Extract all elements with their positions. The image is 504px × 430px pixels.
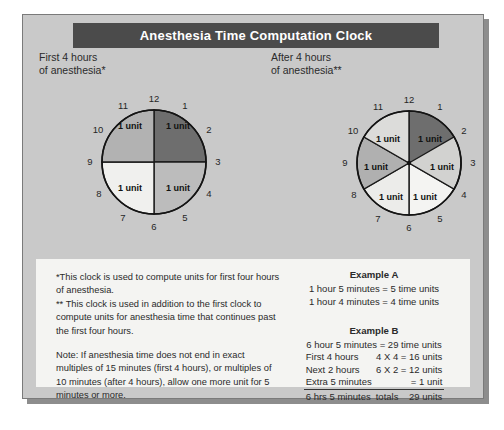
clock2-dial-11: 11: [373, 101, 383, 112]
table-row: Next 2 hours 6 X 2 = 12 units: [304, 364, 445, 376]
clock2-center-hub: [407, 161, 411, 165]
clock2-unit-label-s2: 1 unit: [430, 162, 454, 172]
example-a-title: Example A: [288, 269, 460, 280]
clock1-dial-5: 5: [182, 212, 187, 223]
clock1-dial-4: 4: [206, 188, 211, 199]
clock1-unit-label-q4: 1 unit: [118, 121, 142, 131]
page-title: Anesthesia Time Computation Clock: [73, 23, 439, 48]
clock2-dial-12: 12: [404, 94, 415, 105]
clock1-dial-1: 1: [182, 100, 187, 111]
example-b-title: Example B: [288, 325, 460, 336]
clock2-unit-label-s5: 1 unit: [364, 162, 388, 172]
clock2-dial-6: 6: [406, 222, 411, 233]
footnote-single-asterisk: *This clock is used to compute units for…: [56, 271, 282, 298]
example-b-row-2-value: = 1 unit: [374, 376, 445, 390]
examples-column: Example A 1 hour 5 minutes = 5 time unit…: [288, 269, 460, 403]
clock-quadrants-svg: 1 unit 1 unit 1 unit 1 unit 12 1 2 3 4 5…: [79, 87, 229, 237]
example-b-row-1-label: Next 2 hours: [304, 364, 374, 376]
example-b-table: 6 hour 5 minutes = 29 time units First 4…: [304, 339, 445, 403]
clock1-unit-label-q3: 1 unit: [118, 183, 142, 193]
clock-sextants-svg: 1 unit 1 unit 1 unit 1 unit 1 unit 1 uni…: [334, 88, 484, 238]
table-row: Extra 5 minutes = 1 unit: [304, 376, 445, 390]
first-four-hours-clock-block: First 4 hours of anesthesia* 1 unit 1 un…: [31, 51, 251, 251]
example-b-header: 6 hour 5 minutes = 29 time units: [304, 339, 445, 351]
clock2-unit-label-s3: 1 unit: [413, 192, 437, 202]
clock1-dial-2: 2: [206, 124, 211, 135]
clock1-dial-11: 11: [118, 100, 128, 111]
clock2-dial-9: 9: [342, 157, 347, 168]
clock1-unit-label-q1: 1 unit: [166, 121, 190, 131]
example-a-line-1: 1 hour 5 minutes = 5 time units: [288, 283, 460, 296]
clock2-unit-label-s6: 1 unit: [376, 134, 400, 144]
anesthesia-clock-poster: Anesthesia Time Computation Clock First …: [22, 14, 484, 399]
after-four-hours-caption: After 4 hours of anesthesia**: [271, 51, 342, 77]
footnote-double-asterisk: ** This clock is used in addition to the…: [56, 298, 282, 338]
example-b-total-row: 6 hrs 5 minutes totals 29 units: [304, 390, 445, 404]
clock2-unit-label-s4: 1 unit: [379, 192, 403, 202]
after-four-hours-clock-dial: 1 unit 1 unit 1 unit 1 unit 1 unit 1 uni…: [334, 88, 484, 238]
example-b-total-word: totals: [376, 391, 399, 402]
example-b-row-1-value: 6 X 2 = 12 units: [374, 364, 445, 376]
rounding-note: Note: If anesthesia time does not end in…: [56, 349, 282, 403]
clock1-dial-7: 7: [120, 212, 125, 223]
example-a-body: 1 hour 5 minutes = 5 time units 1 hour 4…: [288, 283, 460, 308]
clock2-dial-7: 7: [375, 213, 380, 224]
example-b-total-label: 6 hrs 5 minutes: [304, 390, 374, 404]
example-b-total-value: totals 29 units: [374, 390, 445, 404]
examples-spacer: [288, 308, 460, 325]
example-b-row-0-value: 4 X 4 = 16 units: [374, 351, 445, 363]
clock1-unit-label-q2: 1 unit: [166, 183, 190, 193]
page-title-text: Anesthesia Time Computation Clock: [140, 28, 372, 43]
clock2-dial-5: 5: [437, 213, 442, 224]
clock2-dial-1: 1: [437, 101, 442, 112]
clock2-dial-10: 10: [348, 125, 359, 136]
clock1-dial-6: 6: [151, 221, 156, 232]
clock2-dial-8: 8: [351, 189, 356, 200]
clock1-dial-3: 3: [215, 156, 220, 167]
clock1-dial-12: 12: [149, 93, 160, 104]
info-panel: *This clock is used to compute units for…: [36, 259, 470, 387]
first-four-hours-caption: First 4 hours of anesthesia*: [39, 51, 106, 77]
clock2-dial-4: 4: [461, 189, 466, 200]
clock1-dial-9: 9: [87, 156, 92, 167]
example-b-total-units: 29 units: [409, 391, 442, 402]
clock2-unit-label-s1: 1 unit: [418, 134, 442, 144]
clock1-dial-10: 10: [93, 124, 104, 135]
clock2-dial-2: 2: [461, 125, 466, 136]
first-four-hours-clock-dial: 1 unit 1 unit 1 unit 1 unit 12 1 2 3 4 5…: [79, 87, 229, 237]
example-b-row-2-label: Extra 5 minutes: [304, 376, 374, 390]
after-four-hours-clock-block: After 4 hours of anesthesia** 1 unit 1 u…: [263, 51, 483, 251]
example-b-header-row: 6 hour 5 minutes = 29 time units: [304, 339, 445, 351]
example-b-row-0-label: First 4 hours: [304, 351, 374, 363]
notes-column: *This clock is used to compute units for…: [56, 271, 282, 403]
table-row: First 4 hours 4 X 4 = 16 units: [304, 351, 445, 363]
example-a-line-2: 1 hour 4 minutes = 4 time units: [288, 296, 460, 309]
clock1-dial-8: 8: [96, 188, 101, 199]
clock2-dial-3: 3: [470, 157, 475, 168]
